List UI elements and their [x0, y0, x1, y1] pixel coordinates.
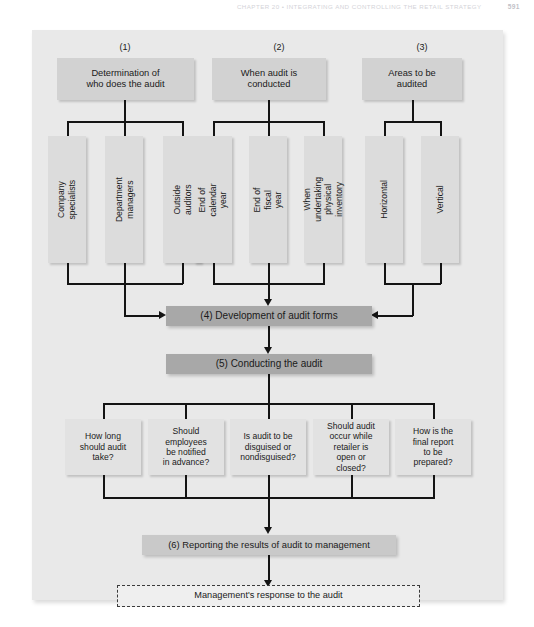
top-box-when-conducted: When audit is conducted [212, 58, 326, 100]
vert-box-end-calendar-year: End of calendar year [194, 136, 232, 263]
outcome-box-management-response: Management's response to the audit [117, 585, 420, 607]
question-box-final-report: How is the final report to be prepared? [395, 419, 471, 475]
top-box-determination: Determination of who does the audit [57, 58, 194, 100]
arrowhead-bar4-to-bar5 [264, 347, 272, 354]
connector-to-bar6 [268, 497, 270, 529]
vert-box-physical-inventory-label: When undertaking physical inventory [302, 177, 345, 222]
running-head: CHAPTER 20 • INTEGRATING AND CONTROLLING… [0, 0, 534, 12]
bar-step-6-reporting: (6) Reporting the results of audit to ma… [142, 535, 396, 555]
vert-box-department-managers-label: Department managers [113, 177, 134, 222]
connector-g1-to-bar4-vert [124, 283, 126, 316]
group-caption-1: (1) [85, 42, 165, 52]
connector-question-drop-3 [268, 403, 270, 420]
connector-g2-up-1 [213, 263, 215, 284]
connector-g3-up-1 [384, 263, 386, 284]
connector-g1-up-3 [182, 263, 184, 284]
vert-box-company-specialists-label: Company specialists [56, 180, 77, 220]
vert-box-end-fiscal-year: End of fiscal year [249, 136, 287, 263]
connector-question-up-4 [351, 475, 353, 498]
connector-question-up-2 [185, 475, 187, 498]
connector-g2-drop-3 [323, 121, 325, 137]
connector-question-up-3 [268, 475, 270, 498]
question-box-retailer-open-closed: Should audit occur while retailer is ope… [313, 419, 389, 475]
group-caption-2: (2) [239, 42, 319, 52]
connector-g1-up-1 [67, 263, 69, 284]
connector-g3-drop-1 [384, 121, 386, 137]
arrowhead-to-bar6 [264, 527, 272, 534]
connector-question-up-5 [433, 475, 435, 498]
connector-g2-up-2 [268, 263, 270, 284]
connector-g1-up-2 [124, 263, 126, 284]
question-box-disguised: Is audit to be disguised or nondisguised… [230, 419, 306, 475]
vert-box-vertical: Vertical [421, 136, 459, 263]
connector-bar5-stem [268, 374, 270, 404]
connector-question-up-1 [103, 475, 105, 498]
question-box-how-long: How long should audit take? [65, 419, 141, 475]
arrowhead-g2-to-bar4 [264, 299, 272, 306]
connector-question-drop-4 [351, 403, 353, 420]
page-number: 591 [508, 3, 520, 10]
vert-box-outside-auditors-label: Outside auditors [171, 184, 192, 215]
top-box-areas-audited: Areas to be audited [362, 58, 462, 100]
connector-g3-drop-2 [440, 121, 442, 137]
connector-g1-drop-2 [124, 121, 126, 137]
vert-box-end-calendar-year-label: End of calendar year [197, 181, 229, 219]
question-box-employees-notified: Should employees be notified in advance? [148, 419, 224, 475]
running-head-title: CHAPTER 20 • INTEGRATING AND CONTROLLING… [237, 3, 482, 10]
connector-question-drop-1 [103, 403, 105, 420]
connector-g2-up-3 [323, 263, 325, 284]
vert-box-department-managers: Department managers [105, 136, 143, 263]
connector-bar4-to-bar5 [268, 326, 270, 349]
connector-question-drop-5 [433, 403, 435, 420]
connector-g1-to-bar4-horiz [124, 315, 161, 317]
connector-g3-stem [412, 100, 414, 122]
connector-g1-drop-1 [67, 121, 69, 137]
connector-bar6-to-outcome [268, 555, 270, 582]
arrowhead-g3-to-bar4 [371, 311, 378, 319]
vert-box-end-fiscal-year-label: End of fiscal year [252, 181, 284, 219]
connector-g2-drop-1 [213, 121, 215, 137]
bar-step-5-conducting: (5) Conducting the audit [166, 354, 372, 374]
connector-g3-to-bar4-vert [412, 283, 414, 316]
connector-g2-stem [268, 100, 270, 122]
vert-box-company-specialists: Company specialists [48, 136, 86, 263]
connector-g3-to-bar4-horiz [377, 315, 413, 317]
figure-panel: (1) (2) (3) Determination of who does th… [32, 30, 503, 600]
vert-box-vertical-label: Vertical [435, 185, 446, 213]
connector-g3-bus [384, 121, 441, 123]
connector-g3-up-2 [440, 263, 442, 284]
connector-question-drop-2 [185, 403, 187, 420]
connector-g1-drop-3 [182, 121, 184, 137]
bar-step-4-development: (4) Development of audit forms [166, 306, 372, 326]
vert-box-horizontal: Horizontal [365, 136, 403, 263]
arrowhead-g1-to-bar4 [159, 311, 166, 319]
connector-g2-drop-2 [268, 121, 270, 137]
vert-box-physical-inventory: When undertaking physical inventory [304, 136, 342, 263]
vert-box-horizontal-label: Horizontal [379, 180, 390, 219]
group-caption-3: (3) [382, 42, 462, 52]
connector-g1-stem [124, 100, 126, 122]
